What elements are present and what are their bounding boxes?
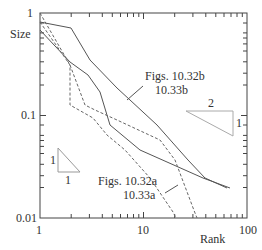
triangle-2-horizontal-label: 2 bbox=[208, 97, 214, 109]
triangle-1-vertical-label: 1 bbox=[50, 154, 56, 166]
y-axis-title: Size bbox=[10, 28, 31, 40]
series-solid-upper bbox=[40, 22, 227, 188]
annotation-lower-line2: 10.33a bbox=[123, 189, 155, 201]
triangle-1-horizontal-label: 1 bbox=[65, 174, 71, 186]
x-tick-100: 100 bbox=[239, 224, 257, 236]
y-tick-0-1: 0.1 bbox=[21, 109, 36, 121]
leader-lower bbox=[165, 185, 178, 193]
slope-triangle-2-1 bbox=[186, 111, 233, 136]
x-tick-10: 10 bbox=[137, 224, 149, 236]
annotation-upper-line1: Figs. 10.32b bbox=[145, 70, 205, 82]
slope-triangle-1-1 bbox=[58, 148, 80, 172]
y-tick-1: 1 bbox=[27, 7, 33, 19]
x-tick-1: 1 bbox=[36, 224, 42, 236]
annotation-lower-line1: Figs. 10.32a bbox=[98, 175, 157, 187]
series-solid-lower bbox=[40, 30, 230, 188]
leader-upper bbox=[127, 86, 143, 100]
triangle-2-vertical-label: 1 bbox=[236, 117, 242, 129]
x-axis-title: Rank bbox=[200, 233, 225, 245]
chart-canvas bbox=[0, 0, 262, 250]
annotation-upper-line2: 10.33b bbox=[155, 84, 188, 96]
y-tick-0-01: 0.01 bbox=[16, 212, 37, 224]
